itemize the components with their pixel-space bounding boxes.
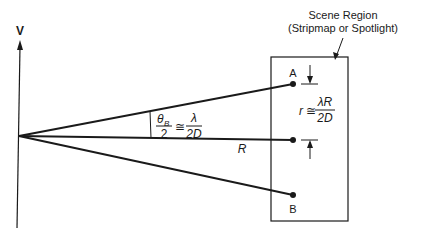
beam-center-line — [19, 136, 293, 140]
scene-label-line1: Scene Region — [308, 9, 377, 21]
beam-eq-theta: θ — [157, 112, 164, 126]
point-b-label: B — [289, 203, 296, 215]
scene-region-label: Scene Region (Stripmap or Spotlight) — [288, 9, 398, 60]
beam-edge-lower — [19, 136, 293, 195]
point-a-marker — [290, 81, 296, 87]
scene-pointer-arrowhead-icon — [333, 52, 339, 60]
scene-label-line2: (Stripmap or Spotlight) — [288, 22, 398, 34]
beamwidth-equation: θ B 2 ≅ λ 2D — [156, 111, 202, 141]
velocity-axis: V — [16, 24, 24, 228]
range-label: R — [238, 142, 247, 156]
beam-eq-den-right: 2D — [185, 127, 202, 141]
arrow-down-icon — [307, 76, 313, 84]
point-center-marker — [290, 137, 296, 143]
res-eq-denominator: 2D — [316, 111, 333, 125]
beam-eq-den-left: 2 — [161, 127, 168, 141]
beam-lines — [19, 84, 293, 195]
point-a-label: A — [289, 67, 297, 79]
beam-eq-num-right: λ — [190, 111, 197, 125]
resolution-equation: r ≅ λR 2D — [299, 95, 335, 125]
arrow-up-icon — [307, 140, 313, 148]
res-eq-numerator: λR — [317, 95, 333, 109]
angle-marker — [150, 111, 151, 138]
velocity-label: V — [16, 24, 24, 38]
point-b-marker — [290, 192, 296, 198]
beam-eq-approx: ≅ — [175, 120, 185, 134]
velocity-arrowhead-icon — [17, 40, 23, 50]
sar-geometry-diagram: V Scene Region (Stripmap or Spotlight) A… — [0, 0, 422, 241]
beam-edge-upper — [19, 84, 293, 136]
res-eq-lhs: r — [299, 104, 304, 118]
res-eq-approx: ≅ — [306, 104, 316, 118]
